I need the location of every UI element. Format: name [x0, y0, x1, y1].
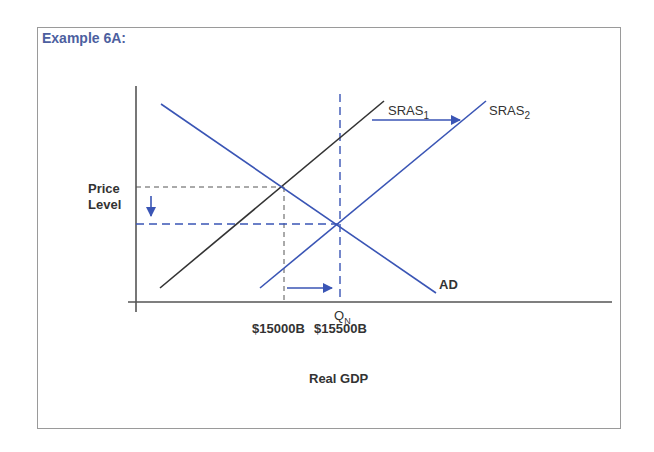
chart-canvas: SRAS1 SRAS2 AD QN $15000B $15500B Price … — [0, 0, 654, 452]
x-tick-15000: $15000B — [252, 321, 305, 336]
sras1-label: SRAS1 — [388, 103, 429, 121]
ad-label: AD — [439, 277, 458, 292]
sras1-curve — [160, 101, 384, 288]
y-axis-label-line2: Level — [88, 197, 121, 212]
y-axis-label-line1: Price — [88, 181, 120, 196]
ad-curve — [161, 104, 436, 293]
x-axis-label: Real GDP — [309, 371, 369, 386]
x-tick-15500: $15500B — [314, 321, 367, 336]
sras2-label: SRAS2 — [489, 103, 530, 121]
